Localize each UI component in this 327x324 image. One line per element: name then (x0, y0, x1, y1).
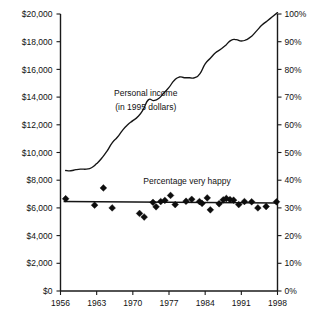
left-axis-tick-labels: $0$2,000$4,000$6,000$8,000$10,000$12,000… (22, 9, 53, 296)
right-tick-label: 100% (285, 9, 307, 19)
happiness-data-point (100, 185, 107, 192)
left-tick-label: $6,000 (27, 203, 53, 213)
happiness-data-point (204, 195, 211, 202)
right-tick-label: 40% (285, 175, 302, 185)
left-y-axis: $0$2,000$4,000$6,000$8,000$10,000$12,000… (22, 9, 61, 296)
right-tick-label: 10% (285, 258, 302, 268)
left-tick-label: $8,000 (27, 175, 53, 185)
right-tick-label: 0% (285, 286, 298, 296)
left-tick-label: $12,000 (22, 120, 53, 130)
x-tick-label: 1991 (232, 298, 251, 308)
happiness-data-point (109, 205, 116, 212)
x-tick-label: 1963 (87, 298, 106, 308)
happiness-data-point (91, 202, 98, 209)
left-tick-label: $20,000 (22, 9, 53, 19)
right-tick-label: 50% (285, 148, 302, 158)
right-tick-label: 70% (285, 92, 302, 102)
x-tick-label: 1998 (268, 298, 287, 308)
right-y-axis: 0%10%20%30%40%50%60%70%80%90%100% (278, 9, 307, 296)
right-axis-tick-labels: 0%10%20%30%40%50%60%70%80%90%100% (285, 9, 307, 296)
left-tick-label: $16,000 (22, 65, 53, 75)
right-tick-label: 30% (285, 203, 302, 213)
happiness-data-point (207, 206, 214, 213)
right-tick-label: 90% (285, 37, 302, 47)
right-tick-label: 60% (285, 120, 302, 130)
happiness-data-point (167, 192, 174, 199)
happiness-data-point (263, 203, 270, 210)
x-axis: 1956196319701977198419911998 (51, 291, 287, 308)
x-tick-label: 1956 (51, 298, 70, 308)
left-tick-label: $14,000 (22, 92, 53, 102)
happiness-data-point (241, 198, 248, 205)
personal-income-label-line1: Personal income (114, 88, 178, 98)
left-tick-label: $2,000 (27, 258, 53, 268)
left-tick-label: $18,000 (22, 37, 53, 47)
income-and-happiness-chart: $0$2,000$4,000$6,000$8,000$10,000$12,000… (0, 0, 327, 324)
chart-annotations: Personal income(in 1995 dollars)Percenta… (114, 88, 231, 186)
x-tick-label: 1984 (196, 298, 215, 308)
x-axis-tick-labels: 1956196319701977198419911998 (51, 298, 287, 308)
happiness-data-point (273, 198, 280, 205)
chart-container: $0$2,000$4,000$6,000$8,000$10,000$12,000… (0, 0, 327, 324)
left-tick-label: $10,000 (22, 148, 53, 158)
left-tick-label: $4,000 (27, 231, 53, 241)
percentage-very-happy-label: Percentage very happy (143, 176, 231, 186)
right-tick-label: 20% (285, 231, 302, 241)
personal-income-label-line2: (in 1995 dollars) (115, 102, 176, 112)
happiness-data-point (254, 205, 261, 212)
left-tick-label: $0 (43, 286, 53, 296)
x-tick-label: 1977 (160, 298, 179, 308)
happiness-data-point (183, 198, 190, 205)
right-tick-label: 80% (285, 65, 302, 75)
x-tick-label: 1970 (123, 298, 142, 308)
happiness-data-point (248, 198, 255, 205)
